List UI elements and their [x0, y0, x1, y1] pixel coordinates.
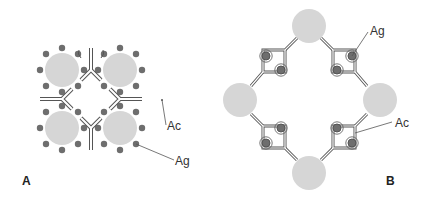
label-ag-a: Ag	[175, 155, 190, 167]
particle-b-top	[292, 9, 326, 43]
antibody-top	[78, 48, 103, 80]
label-ac-b: Ac	[395, 117, 409, 129]
antigen-dots-b	[260, 50, 358, 149]
label-ag-b: Ag	[370, 25, 385, 37]
particle-top-left	[45, 53, 79, 87]
particle-top-right	[103, 53, 137, 87]
leader-ag-a	[136, 144, 174, 160]
antibody-right	[110, 89, 142, 109]
leader-ac-a	[162, 100, 166, 125]
particle-bottom-left	[45, 111, 79, 145]
leader-ac-b	[355, 122, 392, 133]
particle-bottom-right	[103, 111, 137, 145]
particle-b-bottom	[292, 156, 326, 190]
diagram-canvas	[0, 0, 421, 198]
panel-a	[37, 45, 174, 160]
label-ac-a: Ac	[167, 120, 181, 132]
panel-label-a: A	[22, 175, 31, 187]
panel-label-b: B	[386, 175, 395, 187]
leader-ag-b	[352, 32, 368, 56]
antibody-bottom	[81, 118, 101, 150]
antibody-left	[40, 89, 72, 109]
particle-b-left	[223, 83, 257, 117]
particle-b-right	[363, 83, 397, 117]
